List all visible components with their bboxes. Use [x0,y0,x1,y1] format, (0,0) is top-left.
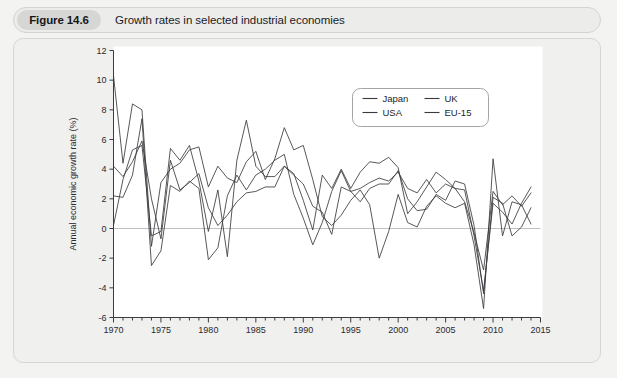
figure-header-bar: Figure 14.6 Growth rates in selected ind… [13,7,601,33]
figure-root: Figure 14.6 Growth rates in selected ind… [0,0,617,378]
figure-caption: Growth rates in selected industrial econ… [115,14,345,26]
figure-number-badge: Figure 14.6 [17,10,101,30]
figure-body-panel [13,38,601,363]
